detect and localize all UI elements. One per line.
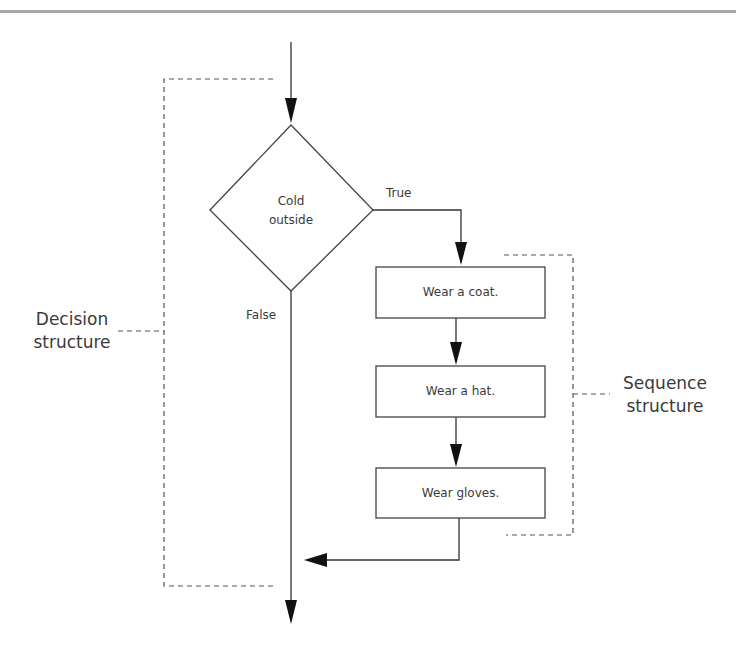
decision-text: Cold outside	[240, 192, 342, 230]
sequence-structure-label: Sequence structure	[612, 372, 718, 418]
true-arrowhead	[455, 242, 467, 265]
step-label-gloves: Wear gloves.	[376, 484, 545, 503]
merge-line	[325, 518, 459, 560]
true-branch-line	[373, 210, 461, 245]
arrowhead-1-2	[450, 342, 462, 365]
sequence-structure-line2: structure	[612, 395, 718, 418]
sequence-structure-line1: Sequence	[612, 372, 718, 395]
decision-text-line1: Cold	[240, 192, 342, 211]
entry-arrowhead	[285, 98, 297, 123]
step-label-coat: Wear a coat.	[376, 283, 545, 302]
false-label: False	[246, 306, 276, 325]
decision-structure-bracket	[164, 79, 273, 586]
merge-arrowhead	[304, 553, 327, 567]
step-label-hat: Wear a hat.	[376, 382, 545, 401]
decision-structure-line1: Decision	[22, 308, 122, 331]
decision-structure-line2: structure	[22, 331, 122, 354]
decision-text-line2: outside	[240, 211, 342, 230]
exit-arrowhead	[285, 600, 297, 624]
decision-structure-label: Decision structure	[22, 308, 122, 354]
arrowhead-2-3	[450, 444, 462, 467]
true-label: True	[386, 184, 412, 203]
